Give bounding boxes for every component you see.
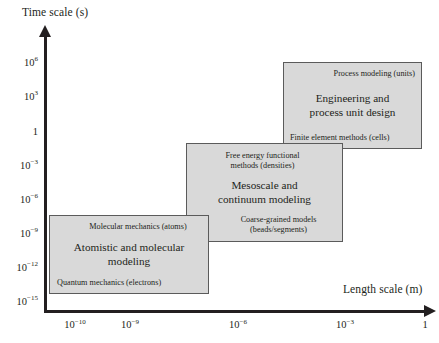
scale-box-mesoscale-main-label: Mesoscale and continuum modeling	[195, 179, 334, 207]
scale-box-atomistic-main-label: Atomistic and molecular modeling	[57, 241, 201, 269]
y-axis-tick-7: 10−15	[0, 297, 38, 308]
y-axis-tick-6: 10−12	[0, 263, 38, 274]
y-axis-tick-4: 10−6	[0, 195, 38, 206]
scale-box-atomistic-top-label: Molecular mechanics (atoms)	[57, 222, 201, 232]
x-axis-tick-0: 10−10	[64, 320, 85, 331]
scale-box-mesoscale: Free energy functional methods (densitie…	[186, 143, 343, 242]
x-axis-arrow-icon	[424, 305, 436, 317]
y-axis-tick-3: 10−3	[0, 161, 38, 172]
scale-box-engineering: Process modeling (units) Engineering and…	[283, 62, 422, 149]
x-axis-line	[44, 310, 430, 313]
y-axis-arrow-icon	[39, 25, 51, 37]
y-axis-tick-0: 106	[0, 58, 38, 69]
scale-box-atomistic: Molecular mechanics (atoms) Atomistic an…	[49, 215, 209, 294]
scale-box-engineering-top-label: Process modeling (units)	[290, 69, 415, 79]
y-axis-tick-2: 1	[0, 127, 38, 138]
x-axis-tick-2: 10−6	[229, 320, 247, 331]
scale-box-engineering-bottom-label: Finite element methods (cells)	[290, 133, 415, 143]
x-axis-tick-4: 1	[422, 320, 427, 331]
x-axis-title: Length scale (m)	[343, 283, 423, 295]
y-axis-line	[44, 34, 47, 313]
scale-box-mesoscale-top-label: Free energy functional methods (densitie…	[195, 151, 334, 171]
multiscale-modeling-diagram: Time scale (s) Length scale (m) 10610311…	[0, 0, 439, 343]
x-axis-tick-3: 10−3	[336, 320, 354, 331]
y-axis-title: Time scale (s)	[22, 6, 88, 18]
scale-box-mesoscale-bottom-label: Coarse-grained models (beads/segments)	[195, 215, 334, 235]
y-axis-tick-1: 103	[0, 92, 38, 103]
scale-box-atomistic-bottom-label: Quantum mechanics (electrons)	[57, 278, 201, 288]
scale-box-engineering-main-label: Engineering and process unit design	[290, 92, 415, 120]
x-axis-tick-1: 10−9	[121, 320, 139, 331]
y-axis-tick-5: 10−9	[0, 229, 38, 240]
